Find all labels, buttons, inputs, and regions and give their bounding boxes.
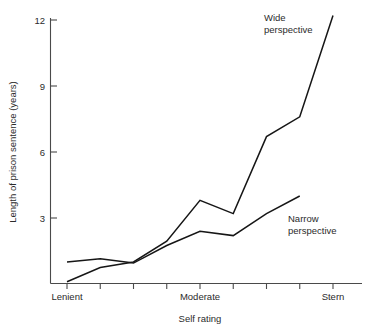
annotation-narrow-line1: Narrow: [288, 213, 319, 224]
x-axis-title: Self rating: [179, 313, 222, 324]
y-tick-label-3: 3: [40, 213, 45, 224]
x-tick-label-lenient: Lenient: [51, 291, 83, 302]
chart-figure: 12 9 6 3 Lenient Moderate Stern Self rat…: [0, 0, 378, 328]
y-axis-title: Length of prison sentence (years): [7, 81, 18, 223]
annotation-narrow-line2: perspective: [288, 225, 337, 236]
x-tick-label-moderate: Moderate: [180, 291, 220, 302]
y-tick-label-9: 9: [40, 81, 45, 92]
line-chart-svg: 12 9 6 3 Lenient Moderate Stern Self rat…: [0, 0, 378, 328]
y-tick-label-6: 6: [40, 147, 45, 158]
annotation-wide-line2: perspective: [264, 24, 313, 35]
x-tick-label-stern: Stern: [322, 291, 345, 302]
annotation-wide-line1: Wide: [264, 12, 286, 23]
y-tick-label-12: 12: [34, 15, 45, 26]
